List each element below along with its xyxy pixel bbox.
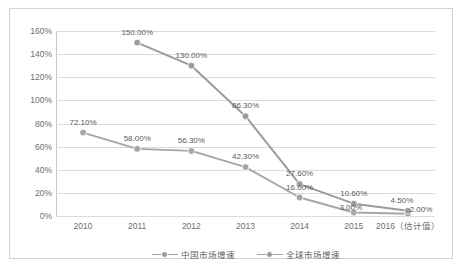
series-line [137, 43, 408, 211]
data-point-label: 150.00% [121, 29, 153, 37]
chart-legend: 中国市场增速 全球市场增速 [56, 247, 435, 261]
x-axis-labels: 2010201120122013201420152016（估计值） [56, 221, 435, 237]
x-axis-tick-label: 2012 [182, 221, 201, 231]
legend-item-global[interactable]: 全球市场增速 [257, 248, 340, 260]
data-point-marker [188, 148, 195, 155]
x-axis-tick-label: 2014 [290, 221, 309, 231]
data-point-marker [134, 146, 141, 153]
data-point-label: 42.30% [232, 153, 259, 161]
y-axis-tick-label: 140% [10, 50, 52, 59]
data-point-marker [80, 129, 87, 136]
data-point-label: 27.60% [286, 170, 313, 178]
data-point-label: 58.00% [124, 135, 151, 143]
series-line [83, 133, 408, 214]
y-axis-tick-label: 120% [10, 73, 52, 82]
data-point-marker [134, 39, 141, 46]
x-axis-tick-label: 2011 [128, 221, 146, 231]
data-point-marker [242, 113, 249, 120]
data-point-label: 72.10% [69, 119, 96, 127]
chart-frame: 0%20%40%60%80%100%120%140%160% 72.10%58.… [9, 8, 453, 259]
gridline [56, 216, 435, 217]
y-axis-labels: 0%20%40%60%80%100%120%140%160% [10, 31, 52, 216]
y-axis-tick-label: 160% [10, 27, 52, 36]
x-axis-tick-label: 2010 [74, 221, 93, 231]
data-point-marker [242, 164, 249, 171]
y-axis-tick-label: 20% [10, 189, 52, 198]
data-point-label: 4.50% [391, 197, 414, 205]
y-axis-tick-label: 80% [10, 119, 52, 128]
data-point-label: 56.30% [178, 137, 205, 145]
series-lines [56, 31, 435, 216]
data-point-label: 130.00% [176, 52, 208, 60]
y-axis-tick-label: 40% [10, 166, 52, 175]
legend-marker-icon [257, 250, 283, 259]
data-point-label: 10.60% [340, 190, 367, 198]
y-axis-tick-label: 0% [10, 212, 52, 221]
plot-area: 72.10%58.00%56.30%42.30%16.00%3.00%2.00%… [56, 31, 435, 216]
data-point-marker [296, 194, 303, 201]
y-axis-tick-label: 100% [10, 96, 52, 105]
legend-label: 中国市场增速 [181, 248, 235, 260]
data-point-label: 3.00% [339, 204, 362, 212]
legend-label: 全球市场增速 [286, 248, 340, 260]
x-axis-tick-label: 2016（估计值） [376, 221, 440, 231]
y-axis-tick-label: 60% [10, 142, 52, 151]
legend-item-china[interactable]: 中国市场增速 [152, 248, 235, 260]
data-point-label: 2.00% [410, 206, 433, 214]
data-point-marker [188, 62, 195, 69]
chart-container: 0%20%40%60%80%100%120%140%160% 72.10%58.… [0, 0, 462, 267]
x-axis-tick-label: 2013 [236, 221, 255, 231]
x-axis-tick-label: 2015 [344, 221, 363, 231]
data-point-label: 86.30% [232, 102, 259, 110]
data-point-label: 16.00% [286, 184, 313, 192]
legend-marker-icon [152, 250, 178, 259]
